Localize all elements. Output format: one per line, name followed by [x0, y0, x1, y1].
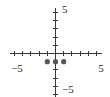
data-points-group — [45, 59, 67, 64]
plot-canvas — [0, 0, 110, 97]
coordinate-plane-figure: 5 −5 −5 5 — [0, 0, 110, 97]
data-point — [45, 59, 50, 64]
data-point — [53, 59, 58, 64]
data-point — [61, 59, 66, 64]
